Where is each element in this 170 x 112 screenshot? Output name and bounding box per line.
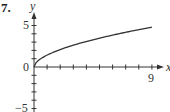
x-axis-label: x <box>165 60 170 74</box>
y-tick-label-0: 0 <box>23 60 29 74</box>
x-axis-arrow-icon <box>157 65 164 70</box>
chart: y x 9 5 0 −5 <box>0 0 170 112</box>
y-axis-label: y <box>29 0 36 13</box>
y-axis-arrow-icon <box>32 12 37 19</box>
y-tick-label-5: 5 <box>23 18 29 32</box>
data-curve <box>34 27 152 67</box>
y-tick-label-neg5: −5 <box>15 101 28 112</box>
x-tick-label-9: 9 <box>148 71 154 85</box>
